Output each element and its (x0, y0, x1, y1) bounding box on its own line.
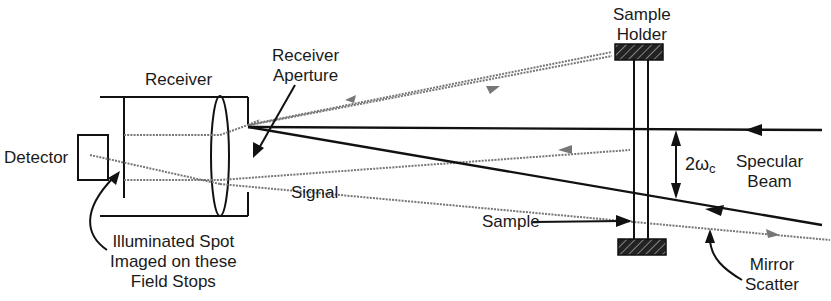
lens (211, 96, 229, 216)
angle-subscript: c (709, 161, 716, 176)
receiver-aperture-line-2: Aperture (272, 66, 339, 86)
mirror-line-2: Scatter (745, 275, 799, 295)
sample-label: Sample (482, 212, 540, 232)
sample-holder-line-1: Sample (613, 5, 671, 25)
spot-line-1: Illuminated Spot (110, 232, 237, 252)
receiver-aperture-line-1: Receiver (272, 46, 339, 66)
spot-line-2: Imaged on these (110, 252, 237, 272)
angle-dimension-arrow (671, 130, 681, 199)
specular-line-2: Beam (736, 172, 803, 192)
receiver-label: Receiver (145, 70, 212, 90)
mirror-line-1: Mirror (745, 255, 799, 275)
sample-holder-line-2: Holder (613, 25, 671, 45)
spot-line-3: Field Stops (110, 272, 237, 292)
illuminated-spot-label: Illuminated Spot Imaged on these Field S… (110, 232, 237, 292)
signal-label: Signal (291, 183, 338, 203)
angle-label: 2ωc (685, 154, 716, 179)
receiver-aperture-label: Receiver Aperture (272, 46, 339, 86)
angle-symbol: 2ω (685, 154, 709, 174)
detector-label: Detector (4, 148, 68, 168)
specular-beam-label: Specular Beam (736, 152, 803, 192)
mirror-scatter-label: Mirror Scatter (745, 255, 799, 295)
leader-arrowheads (108, 142, 715, 243)
specular-line-1: Specular (736, 152, 803, 172)
sample-holder-label: Sample Holder (613, 5, 671, 45)
